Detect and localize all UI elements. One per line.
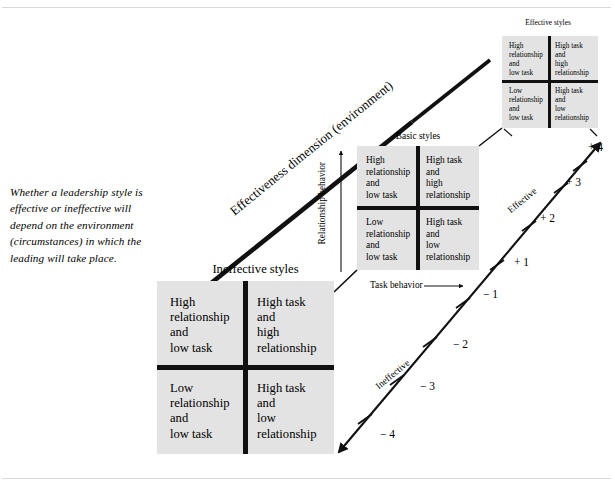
ineffective-cell-bottom-left: Low relationship and low task xyxy=(170,381,229,442)
effective-cell-bottom-right: High task and low relationship xyxy=(555,87,589,123)
tick-plus-4 xyxy=(573,161,587,171)
basic-cell-bottom-right: High task and low relationship xyxy=(426,217,470,263)
page-top-rule xyxy=(2,7,611,8)
basic-styles-title: Basic styles xyxy=(357,131,479,141)
tick-minus-2 xyxy=(423,337,437,347)
basic-cell-top-right: High task and high relationship xyxy=(426,155,470,201)
ineffective-cell-top-right: High task and high relationship xyxy=(257,295,316,356)
tick-plus-1 xyxy=(490,260,504,270)
effective-cell-top-left: High relationship and low task xyxy=(509,42,543,78)
effective-axis-label: Effective xyxy=(506,186,539,215)
effective-box-corner-ticks xyxy=(504,129,597,136)
scale-label-plus-4: + 4 xyxy=(588,141,603,153)
basic-cell-bottom-left: Low relationship and low task xyxy=(366,217,410,263)
ineffective-cell-bottom-right: High task and low relationship xyxy=(257,381,316,442)
relationship-behavior-label: Relationship behavior xyxy=(317,162,327,245)
scale-label-plus-1: + 1 xyxy=(514,256,529,268)
basic-cell-top-left: High relationship and low task xyxy=(366,155,410,201)
effective-cell-bottom-left: Low relationship and low task xyxy=(509,87,543,123)
effective-grid-horizontal-divider xyxy=(502,80,598,83)
task-behavior-label: Task behavior xyxy=(370,280,423,290)
effective-cell-top-right: High task and high relationship xyxy=(555,42,589,78)
tick-minus-4 xyxy=(358,414,372,424)
scale-label-plus-3: + 3 xyxy=(566,176,581,188)
ineffective-styles-grid: High relationship and low task High task… xyxy=(157,281,334,454)
tick-plus-2 xyxy=(522,221,536,231)
scale-label-plus-2: + 2 xyxy=(540,212,555,224)
basic-grid-horizontal-divider xyxy=(357,206,479,210)
scale-label-minus-3: − 3 xyxy=(420,380,435,392)
scale-label-minus-1: − 1 xyxy=(483,288,498,300)
tick-minus-1 xyxy=(456,298,470,308)
ineffective-axis-label: Ineffective xyxy=(374,358,412,391)
effective-styles-title: Effective styles xyxy=(500,18,596,27)
caption-text: Whether a leadership style is effective … xyxy=(10,184,160,266)
scale-label-minus-4: − 4 xyxy=(380,428,395,440)
basic-styles-grid: High relationship and low task High task… xyxy=(357,146,479,270)
scale-label-minus-2: − 2 xyxy=(453,338,468,350)
ineffective-cell-top-left: High relationship and low task xyxy=(170,295,229,356)
effective-styles-grid: High relationship and low task High task… xyxy=(502,36,598,128)
ineffective-styles-title: Ineffective styles xyxy=(167,262,344,277)
diagram-canvas: Whether a leadership style is effective … xyxy=(0,0,615,487)
page-bottom-rule xyxy=(2,478,611,479)
ineffective-grid-horizontal-divider xyxy=(157,365,334,370)
